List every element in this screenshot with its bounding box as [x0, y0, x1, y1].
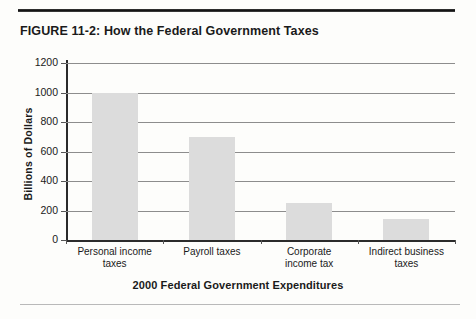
x-axis-separator-3 — [358, 240, 359, 244]
y-tick-label-1200: 1200 — [18, 56, 58, 68]
x-tick-label-1: Payroll taxes — [163, 246, 260, 258]
x-tick-label-0: Personal incometaxes — [66, 246, 163, 269]
x-axis-separator-0 — [66, 240, 67, 244]
plot-area — [66, 63, 455, 240]
bar-chart: Billions of Dollars 02004006008001000120… — [0, 0, 476, 319]
x-tick-label-2: Corporateincome tax — [261, 246, 358, 269]
x-tick-label-line: income tax — [261, 258, 358, 270]
y-tick-label-1000: 1000 — [18, 86, 58, 98]
y-tick-mark-600 — [61, 152, 66, 153]
x-axis-separator-2 — [261, 240, 262, 244]
bar-0[interactable] — [92, 93, 138, 241]
gridline-1200 — [66, 63, 455, 64]
x-axis-separator-1 — [163, 240, 164, 244]
x-tick-label-line: Personal income — [66, 246, 163, 258]
y-tick-mark-200 — [61, 211, 66, 212]
y-tick-label-200: 200 — [18, 204, 58, 216]
y-tick-mark-1200 — [61, 63, 66, 64]
x-axis-title: 2000 Federal Government Expenditures — [0, 279, 476, 291]
x-tick-label-line: taxes — [66, 258, 163, 270]
x-tick-label-line: Corporate — [261, 246, 358, 258]
bar-1[interactable] — [189, 137, 235, 240]
x-axis-separator-end — [455, 240, 456, 244]
x-tick-label-line: taxes — [358, 258, 455, 270]
y-tick-label-0: 0 — [18, 233, 58, 245]
bar-3[interactable] — [383, 219, 429, 240]
x-tick-label-line: Indirect business — [358, 246, 455, 258]
x-tick-label-3: Indirect businesstaxes — [358, 246, 455, 269]
y-tick-label-800: 800 — [18, 115, 58, 127]
y-tick-label-400: 400 — [18, 174, 58, 186]
y-tick-mark-1000 — [61, 93, 66, 94]
y-tick-mark-400 — [61, 181, 66, 182]
bar-2[interactable] — [286, 203, 332, 240]
y-tick-label-600: 600 — [18, 145, 58, 157]
x-tick-label-line: Payroll taxes — [163, 246, 260, 258]
page-bottom-rule — [20, 304, 460, 305]
y-tick-mark-800 — [61, 122, 66, 123]
